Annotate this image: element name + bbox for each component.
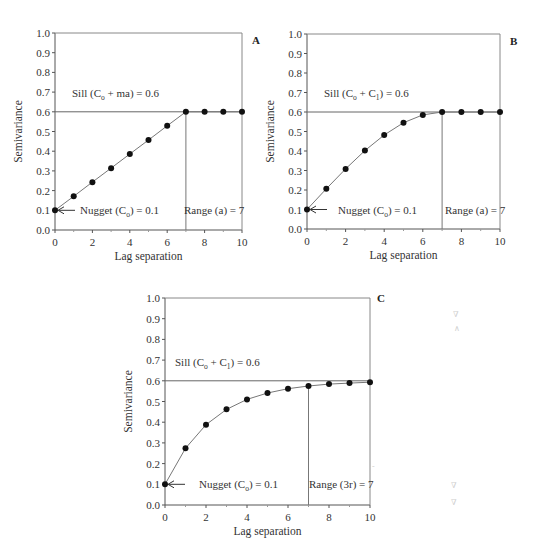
y-tick-label: 0.6 [146, 375, 160, 387]
text-span: ) = 0.1 [249, 478, 278, 491]
data-point [239, 109, 245, 115]
y-tick-label: 0.3 [288, 165, 302, 177]
data-point [306, 383, 312, 389]
data-point [146, 137, 152, 143]
x-tick-label: 4 [381, 235, 387, 247]
x-tick-label: 8 [459, 235, 465, 247]
y-tick-label: 0.5 [146, 396, 160, 408]
y-tick-label: 0.5 [288, 126, 302, 138]
data-point [497, 109, 503, 115]
panel-letter-label: B [510, 35, 518, 47]
data-point [367, 379, 373, 385]
semivariance-line [55, 112, 242, 211]
y-tick-label: 0.0 [36, 224, 50, 236]
data-point [203, 422, 209, 428]
x-tick-label: 8 [326, 511, 332, 523]
x-tick-label: 0 [52, 236, 58, 248]
y-tick-label: 0.4 [288, 145, 302, 157]
data-point [347, 380, 353, 386]
text-span: + ma) = 0.6 [105, 87, 160, 100]
y-axis-title: Semivariance [12, 100, 24, 163]
chart-panel-b-spherical: 0.00.10.20.30.40.50.60.70.80.91.00246810… [264, 28, 518, 262]
text-span: ) = 0.1 [130, 204, 159, 217]
data-point [71, 193, 77, 199]
data-point [285, 386, 291, 392]
x-tick-label: 6 [285, 511, 291, 523]
x-tick-label: 6 [164, 236, 170, 248]
chart-panel-c-exponential: 0.00.10.20.30.40.50.60.70.80.91.00246810… [122, 292, 385, 538]
y-axis-title: Semivariance [122, 370, 134, 433]
data-point [458, 109, 464, 115]
text-span: ) = 0.6 [231, 356, 261, 369]
semivariogram-figure: 0.00.10.20.30.40.50.60.70.80.91.00246810… [0, 0, 536, 555]
text-span: + C [357, 87, 376, 99]
data-point [265, 390, 271, 396]
x-tick-label: 2 [90, 236, 96, 248]
x-tick-label: 8 [202, 236, 208, 248]
x-tick-label: 4 [244, 511, 250, 523]
data-point [183, 109, 189, 115]
data-point [323, 186, 329, 192]
y-tick-label: 1.0 [36, 27, 50, 39]
y-tick-label: 0.9 [288, 48, 302, 60]
y-tick-label: 0.0 [146, 499, 160, 511]
range-annotation: Range (a) = 7 [184, 204, 245, 217]
x-tick-label: 2 [203, 511, 209, 523]
y-tick-label: 0.7 [146, 354, 160, 366]
y-tick-label: 0.3 [146, 437, 160, 449]
sill-annotation: Sill (Co + C1) = 0.6 [175, 356, 260, 371]
nugget-annotation: Nugget (Co) = 0.1 [199, 478, 278, 493]
nugget-annotation: Nugget (Co) = 0.1 [80, 204, 159, 219]
y-tick-label: 0.9 [36, 47, 50, 59]
y-tick-label: 0.6 [288, 106, 302, 118]
range-annotation: Range (3r) = 7 [309, 478, 374, 491]
data-point [401, 120, 407, 126]
x-axis-title: Lag separation [114, 250, 182, 263]
data-point [89, 179, 95, 185]
y-tick-label: 0.2 [288, 184, 302, 196]
x-axis-title: Lag separation [369, 249, 437, 262]
y-tick-label: 0.8 [36, 66, 50, 78]
nugget-annotation: Nugget (Co) = 0.1 [338, 204, 417, 219]
sill-annotation: Sill (Co + C1) = 0.6 [324, 87, 409, 102]
x-tick-label: 0 [304, 235, 310, 247]
y-tick-label: 0.4 [146, 416, 160, 428]
data-point [420, 112, 426, 118]
y-tick-label: 0.1 [288, 204, 302, 216]
y-tick-label: 0.9 [146, 313, 160, 325]
data-point [326, 381, 332, 387]
svg-text:∇: ∇ [453, 310, 459, 319]
y-tick-label: 0.7 [288, 87, 302, 99]
y-tick-label: 0.4 [36, 145, 50, 157]
data-point [224, 406, 230, 412]
panel-letter-label: C [377, 292, 385, 304]
data-point [164, 123, 170, 129]
semivariance-line [165, 382, 370, 484]
data-point [362, 148, 368, 154]
range-annotation: Range (a) = 7 [445, 204, 506, 217]
y-tick-label: 0.7 [36, 86, 50, 98]
scan-artifacts: ∇ ∧ ∇ ∇ - [372, 310, 460, 507]
x-axis-title: Lag separation [233, 525, 301, 538]
y-tick-label: 0.1 [36, 204, 50, 216]
y-tick-label: 0.6 [36, 106, 50, 118]
text-span: Sill (C [72, 87, 101, 100]
svg-text:∇: ∇ [451, 498, 457, 507]
data-point [183, 445, 189, 451]
x-tick-label: 4 [127, 236, 133, 248]
y-tick-label: 0.2 [146, 458, 160, 470]
text-span: Sill (C [175, 356, 204, 369]
x-tick-label: 2 [343, 235, 349, 247]
y-tick-label: 0.2 [36, 185, 50, 197]
y-axis-title: Semivariance [264, 100, 276, 163]
text-span: + C [208, 356, 227, 368]
sill-annotation: Sill (Co + ma) = 0.6 [72, 87, 160, 102]
y-tick-label: 0.3 [36, 165, 50, 177]
text-span: ) = 0.1 [388, 204, 417, 217]
y-tick-label: 0.5 [36, 126, 50, 138]
x-tick-label: 6 [420, 235, 426, 247]
text-span: Sill (C [324, 87, 353, 100]
y-tick-label: 1.0 [146, 292, 160, 304]
text-span: Nugget (C [199, 478, 245, 491]
x-tick-label: 10 [365, 511, 377, 523]
